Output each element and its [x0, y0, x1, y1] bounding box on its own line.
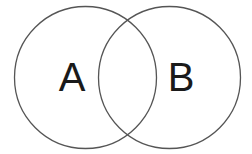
- set-a-circle: [15, 7, 157, 149]
- venn-diagram: A B: [0, 0, 252, 154]
- set-a-label: A: [59, 55, 86, 99]
- set-b-label: B: [168, 55, 195, 99]
